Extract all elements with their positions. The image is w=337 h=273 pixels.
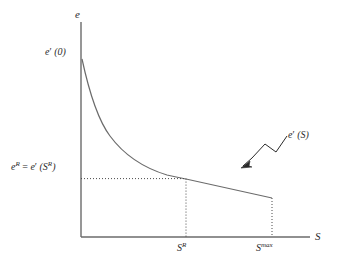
label-s-r-superscript: R [182,241,186,249]
label-e-r-lhs-superscript: R [15,160,19,168]
label-s-r: SR [177,243,186,253]
label-e-prime-zero-prime: ′ [49,46,51,57]
label-e-prime-zero: e′ (0) [45,47,66,57]
economics-figure: e S e′ (0) eR = e′ (SR) SR Smax e′ (S) [0,0,337,273]
y-axis-label: e [75,9,80,20]
label-e-r-rhs-prime: ′ [35,161,37,172]
label-e-r-equals-sign: = [22,161,28,172]
annotation-arrowhead-icon [241,161,252,168]
label-s-max: Smax [256,243,273,253]
plot-canvas [0,0,337,273]
label-s-max-superscript: max [261,241,273,249]
label-curve-arg: (S) [297,129,309,140]
curve-e-prime-s [82,59,272,198]
label-curve-annotation: e′ (S) [288,130,309,140]
label-e-r-rhs-arg-close: ) [52,161,55,172]
label-e-prime-zero-arg: (0) [54,46,66,57]
label-curve-prime: ′ [292,129,294,140]
x-axis-label: S [315,231,321,242]
label-e-r-equation: eR = e′ (SR) [11,162,55,172]
label-e-r-rhs-arg-open: (S [40,161,48,172]
